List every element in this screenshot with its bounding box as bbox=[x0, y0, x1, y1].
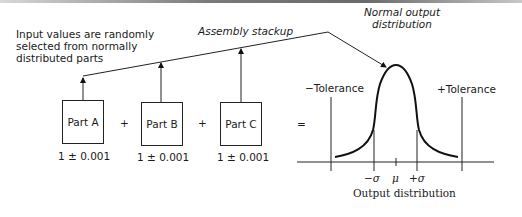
plus-tolerance-label: +Tolerance bbox=[437, 83, 496, 95]
part-c-box: Part C bbox=[220, 102, 262, 146]
output-distribution-caption: Output distribution bbox=[353, 187, 456, 199]
equals-operator: = bbox=[297, 118, 306, 130]
plus-operator: + bbox=[198, 117, 207, 129]
part-b-box: Part B bbox=[141, 102, 183, 146]
part-a-box: Part A bbox=[62, 100, 104, 144]
inputs-note-line-3: distributed parts bbox=[16, 52, 154, 64]
normal-output-line-2: distribution bbox=[362, 18, 442, 30]
minus-sigma-label: −σ bbox=[364, 172, 380, 184]
inputs-note-line-1: Input values are randomly bbox=[16, 28, 154, 40]
mu-label: μ bbox=[392, 172, 399, 184]
part-c-value: 1 ± 0.001 bbox=[217, 151, 269, 163]
inputs-note-line-2: selected from normally bbox=[16, 40, 154, 52]
normal-output-line-1: Normal output bbox=[362, 6, 442, 18]
inputs-note: Input values are randomly selected from … bbox=[16, 28, 154, 64]
part-b-label: Part B bbox=[146, 118, 177, 130]
plus-operator: + bbox=[120, 117, 129, 129]
part-a-label: Part A bbox=[67, 116, 98, 128]
assembly-stackup-label: Assembly stackup bbox=[198, 25, 293, 37]
part-b-value: 1 ± 0.001 bbox=[137, 151, 189, 163]
normal-output-label: Normal output distribution bbox=[362, 6, 442, 30]
part-a-value: 1 ± 0.001 bbox=[58, 150, 110, 162]
minus-tolerance-label: −Tolerance bbox=[305, 82, 364, 94]
part-c-label: Part C bbox=[225, 118, 256, 130]
plus-sigma-label: +σ bbox=[409, 172, 425, 184]
